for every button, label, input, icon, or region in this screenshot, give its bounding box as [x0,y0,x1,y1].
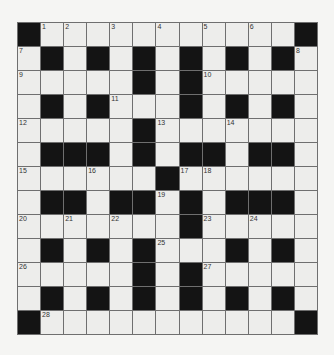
crossword-cell[interactable] [64,287,86,310]
crossword-cell[interactable] [87,119,109,142]
crossword-cell[interactable] [226,167,248,190]
crossword-cell[interactable]: 17 [180,167,202,190]
crossword-cell[interactable] [156,71,178,94]
crossword-cell[interactable] [110,263,132,286]
crossword-cell[interactable] [249,95,271,118]
crossword-cell[interactable] [272,215,294,238]
crossword-cell[interactable] [87,71,109,94]
crossword-cell[interactable] [203,47,225,70]
crossword-cell[interactable] [226,23,248,46]
crossword-cell[interactable] [226,71,248,94]
crossword-cell[interactable] [272,263,294,286]
crossword-cell[interactable] [295,95,317,118]
crossword-cell[interactable] [64,47,86,70]
crossword-cell[interactable] [110,239,132,262]
crossword-cell[interactable] [18,239,40,262]
crossword-cell[interactable] [295,239,317,262]
crossword-cell[interactable] [295,71,317,94]
crossword-cell[interactable] [64,95,86,118]
crossword-cell[interactable] [110,143,132,166]
crossword-cell[interactable] [203,191,225,214]
crossword-cell[interactable]: 9 [18,71,40,94]
crossword-cell[interactable] [249,119,271,142]
crossword-cell[interactable] [41,167,63,190]
crossword-cell[interactable]: 25 [156,239,178,262]
crossword-cell[interactable] [64,263,86,286]
crossword-cell[interactable] [272,71,294,94]
crossword-cell[interactable] [64,119,86,142]
crossword-cell[interactable] [226,311,248,334]
crossword-cell[interactable] [18,143,40,166]
crossword-cell[interactable] [156,215,178,238]
crossword-cell[interactable] [110,287,132,310]
crossword-cell[interactable] [41,215,63,238]
crossword-cell[interactable]: 11 [110,95,132,118]
crossword-cell[interactable] [133,311,155,334]
crossword-cell[interactable] [249,311,271,334]
crossword-cell[interactable]: 26 [18,263,40,286]
crossword-cell[interactable]: 6 [249,23,271,46]
crossword-cell[interactable]: 10 [203,71,225,94]
crossword-cell[interactable] [133,95,155,118]
crossword-cell[interactable] [110,71,132,94]
crossword-cell[interactable] [156,263,178,286]
crossword-cell[interactable] [249,167,271,190]
crossword-cell[interactable] [203,311,225,334]
crossword-cell[interactable]: 1 [41,23,63,46]
crossword-cell[interactable]: 2 [64,23,86,46]
crossword-cell[interactable] [18,95,40,118]
crossword-cell[interactable]: 24 [249,215,271,238]
crossword-cell[interactable]: 3 [110,23,132,46]
crossword-cell[interactable] [156,95,178,118]
crossword-cell[interactable]: 19 [156,191,178,214]
crossword-cell[interactable] [272,167,294,190]
crossword-cell[interactable] [295,143,317,166]
crossword-cell[interactable]: 16 [87,167,109,190]
crossword-cell[interactable] [180,23,202,46]
crossword-cell[interactable] [156,143,178,166]
crossword-cell[interactable] [87,215,109,238]
crossword-cell[interactable] [249,71,271,94]
crossword-cell[interactable]: 4 [156,23,178,46]
crossword-cell[interactable]: 22 [110,215,132,238]
crossword-cell[interactable]: 12 [18,119,40,142]
crossword-cell[interactable] [295,287,317,310]
crossword-cell[interactable] [226,215,248,238]
crossword-cell[interactable] [272,311,294,334]
crossword-cell[interactable] [87,23,109,46]
crossword-cell[interactable]: 28 [41,311,63,334]
crossword-cell[interactable] [87,191,109,214]
crossword-cell[interactable] [64,311,86,334]
crossword-cell[interactable] [272,119,294,142]
crossword-cell[interactable]: 23 [203,215,225,238]
crossword-cell[interactable]: 20 [18,215,40,238]
crossword-cell[interactable] [203,239,225,262]
crossword-cell[interactable] [180,119,202,142]
crossword-cell[interactable]: 15 [18,167,40,190]
crossword-cell[interactable] [203,119,225,142]
crossword-cell[interactable] [156,47,178,70]
crossword-cell[interactable] [87,263,109,286]
crossword-cell[interactable] [41,119,63,142]
crossword-cell[interactable] [110,167,132,190]
crossword-cell[interactable] [180,239,202,262]
crossword-cell[interactable] [295,215,317,238]
crossword-cell[interactable] [226,143,248,166]
crossword-cell[interactable] [133,167,155,190]
crossword-cell[interactable] [249,263,271,286]
crossword-cell[interactable]: 21 [64,215,86,238]
crossword-cell[interactable] [156,287,178,310]
crossword-cell[interactable] [110,311,132,334]
crossword-cell[interactable] [180,311,202,334]
crossword-cell[interactable] [41,71,63,94]
crossword-cell[interactable] [41,263,63,286]
crossword-cell[interactable]: 18 [203,167,225,190]
crossword-cell[interactable] [295,263,317,286]
crossword-cell[interactable] [133,23,155,46]
crossword-cell[interactable] [87,311,109,334]
crossword-cell[interactable] [249,287,271,310]
crossword-cell[interactable]: 13 [156,119,178,142]
crossword-cell[interactable]: 5 [203,23,225,46]
crossword-cell[interactable]: 7 [18,47,40,70]
crossword-cell[interactable] [203,95,225,118]
